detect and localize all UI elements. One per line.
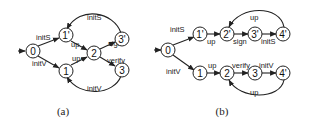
caption-a: (a) xyxy=(57,105,70,118)
svg-text:3: 3 xyxy=(119,65,125,76)
node-0: 0 xyxy=(26,44,40,58)
svg-text:1': 1' xyxy=(196,29,204,40)
svg-text:4': 4' xyxy=(279,68,287,79)
svg-text:1': 1' xyxy=(62,30,70,41)
edge-label-initV-loop: initV xyxy=(87,84,102,93)
node-4-prime-top: 4' xyxy=(276,27,290,41)
node-3: 3 xyxy=(248,66,262,80)
edge-label-initS-top: initS xyxy=(261,37,276,46)
node-0: 0 xyxy=(161,43,175,57)
edge-label-up-loop-top: up xyxy=(250,13,258,22)
node-3: 3 xyxy=(115,63,129,77)
node-1: 1 xyxy=(193,66,207,80)
edge-label-sign: sign xyxy=(233,37,247,46)
node-1: 1 xyxy=(59,64,73,78)
edge-label-initS: initS xyxy=(170,25,185,34)
node-2: 2 xyxy=(220,66,234,80)
node-3-prime: 3' xyxy=(248,27,262,41)
node-2-prime: 2' xyxy=(220,27,234,41)
edge-label-initS: initS xyxy=(36,33,51,42)
caption-b: (b) xyxy=(216,105,229,118)
svg-text:1: 1 xyxy=(197,68,203,79)
edge-label-up-top: up xyxy=(207,37,215,46)
edge-label-initV-bottom: initV xyxy=(259,61,274,70)
node-1-prime: 1' xyxy=(193,27,207,41)
svg-text:2: 2 xyxy=(224,68,230,79)
svg-text:0: 0 xyxy=(165,45,171,56)
state-diagrams: initS initV up up sign verify initS init… xyxy=(0,0,310,128)
edge-label-up-loop-bottom: up xyxy=(250,88,258,97)
diagram-a: initS initV up up sign verify initS init… xyxy=(18,13,129,118)
edge-label-initV: initV xyxy=(32,59,47,68)
edge-label-up-bottom: up xyxy=(72,54,80,63)
node-3-prime: 3' xyxy=(115,32,129,46)
edge-label-up-bottom: up xyxy=(208,61,216,70)
svg-text:3': 3' xyxy=(118,34,126,45)
svg-text:0: 0 xyxy=(30,46,36,57)
svg-text:3: 3 xyxy=(252,68,258,79)
edge-0-1p xyxy=(173,37,194,45)
node-4-prime-bottom: 4' xyxy=(276,66,290,80)
svg-text:2: 2 xyxy=(91,48,97,59)
edge-label-initS-loop: initS xyxy=(87,13,102,22)
node-2: 2 xyxy=(87,46,101,60)
edge-label-verify: verify xyxy=(232,61,250,70)
svg-text:3': 3' xyxy=(251,29,259,40)
svg-text:4': 4' xyxy=(279,29,287,40)
edge-label-initV: initV xyxy=(166,67,181,76)
diagram-b: initS initV up sign initS up up verify i… xyxy=(154,11,290,119)
svg-text:1: 1 xyxy=(63,66,69,77)
svg-text:2': 2' xyxy=(223,29,231,40)
edge-label-up-top: up xyxy=(71,40,79,49)
node-1-prime: 1' xyxy=(59,28,73,42)
